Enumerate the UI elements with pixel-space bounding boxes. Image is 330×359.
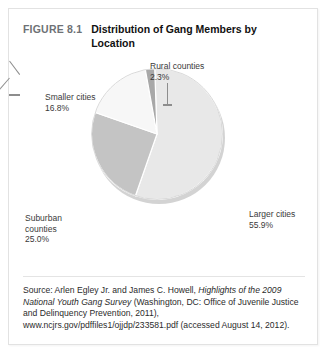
pie-chart: Rural counties 2.3% Smaller cities 16.8%…	[9, 61, 317, 276]
pie-slices	[91, 68, 223, 200]
pie-graphic	[91, 68, 223, 200]
label-smaller-cities-value: 16.8%	[45, 103, 96, 114]
leader-line-smaller-cities	[9, 61, 20, 75]
label-suburban-counties-text-2: counties	[25, 224, 62, 235]
figure-header: FIGURE 8.1 Distribution of Gang Members …	[23, 23, 305, 50]
leader-line-suburban-counties	[0, 78, 10, 91]
figure-number: FIGURE 8.1	[23, 23, 82, 35]
source-note: Source: Arlen Egley Jr. and James C. How…	[23, 285, 309, 331]
leader-line-rural-horizontal	[163, 104, 172, 106]
label-smaller-cities: Smaller cities 16.8%	[45, 92, 96, 113]
label-rural-counties: Rural counties 2.3%	[150, 61, 204, 82]
leader-line-rural-vertical	[167, 83, 168, 105]
label-rural-counties-text: Rural counties	[150, 61, 204, 72]
label-suburban-counties-text-1: Suburban	[25, 213, 62, 224]
figure-card: FIGURE 8.1 Distribution of Gang Members …	[8, 8, 318, 345]
source-divider	[23, 276, 305, 277]
label-rural-counties-value: 2.3%	[150, 72, 204, 83]
leader-line-larger-cities	[9, 94, 20, 96]
label-larger-cities: Larger cities 55.9%	[249, 209, 295, 230]
source-prefix: Source: Arlen Egley Jr. and James C. How…	[23, 285, 198, 295]
label-suburban-counties-value: 25.0%	[25, 234, 62, 245]
label-suburban-counties: Suburban counties 25.0%	[25, 213, 62, 245]
label-larger-cities-text: Larger cities	[249, 209, 295, 220]
label-smaller-cities-text: Smaller cities	[45, 92, 96, 103]
label-larger-cities-value: 55.9%	[249, 220, 295, 231]
page-title: Distribution of Gang Members by Location	[91, 23, 289, 50]
